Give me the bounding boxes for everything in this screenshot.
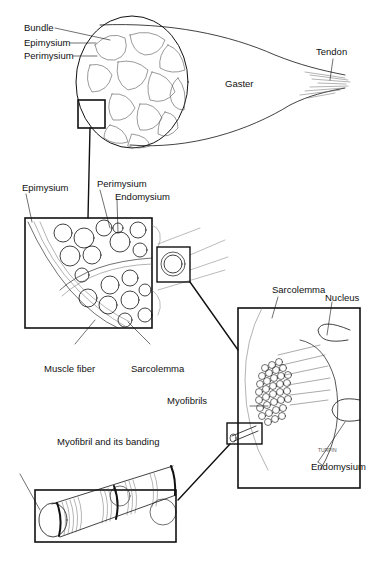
label-sarcolemma-mid: Sarcolemma: [131, 364, 184, 374]
zoom-box-bundle: [78, 100, 105, 128]
label-nucleus: Nucleus: [325, 293, 359, 303]
label-endomysium-mid: Endomysium: [115, 192, 170, 202]
label-muscle-fiber: Muscle fiber: [44, 364, 95, 374]
label-myofibril-banding: Myofibril and its banding: [57, 437, 159, 447]
label-perimysium-top: Perimysium: [24, 51, 74, 61]
label-endomysium-right: Endomysium: [311, 462, 366, 472]
artist-signature: TURPIN: [318, 448, 337, 453]
label-epimysium-mid: Epimysium: [22, 183, 68, 193]
label-gaster: Gaster: [225, 79, 254, 89]
myofibril-detail-panel: [20, 462, 176, 542]
bundle-detail-panel: [25, 190, 238, 350]
label-tendon: Tendon: [316, 47, 347, 57]
zoom-box-myofibril: [227, 423, 262, 444]
label-perimysium-mid: Perimysium: [97, 179, 147, 189]
label-epimysium-top: Epimysium: [24, 38, 70, 48]
label-bundle: Bundle: [24, 23, 54, 33]
label-myofibrils: Myofibrils: [167, 396, 207, 406]
label-sarcolemma-right: Sarcolemma: [272, 285, 325, 295]
